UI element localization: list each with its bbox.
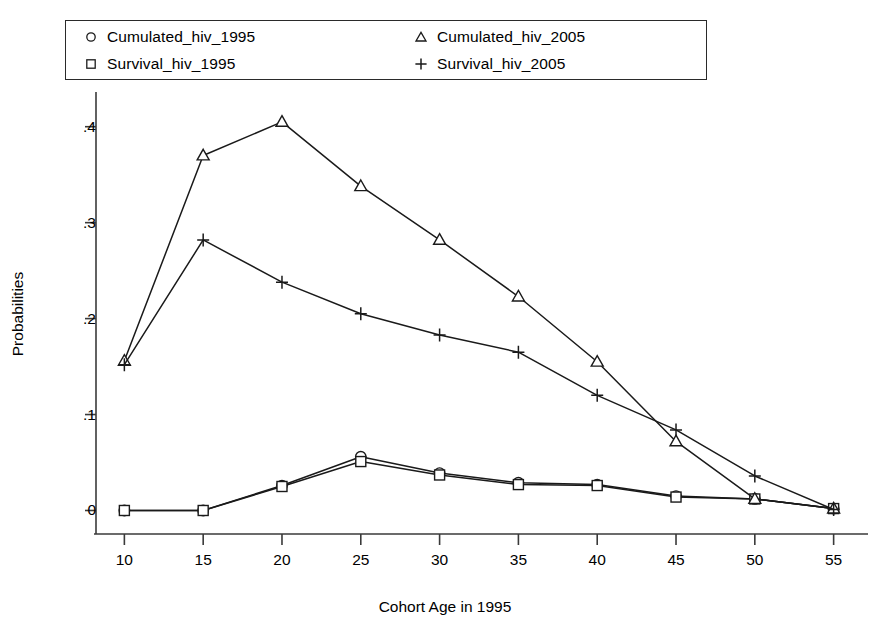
- square-marker: [513, 480, 523, 490]
- x-tick-label: 55: [814, 551, 854, 569]
- x-tick-label: 20: [262, 551, 302, 569]
- triangle-marker: [434, 234, 446, 245]
- triangle-marker: [276, 116, 288, 127]
- y-axis-title: Probabilities: [9, 234, 27, 394]
- x-tick-label: 45: [656, 551, 696, 569]
- series-survival-hiv-2005: [118, 233, 839, 516]
- plus-marker: [749, 469, 761, 482]
- plus-marker: [197, 233, 209, 246]
- plus-marker: [512, 346, 524, 359]
- x-tick-label: 35: [498, 551, 538, 569]
- square-marker: [435, 470, 445, 480]
- y-tick-label: .4: [66, 118, 96, 136]
- triangle-marker: [355, 180, 367, 191]
- plus-marker: [670, 423, 682, 436]
- series-cumulated-hiv-2005: [118, 116, 839, 513]
- y-tick-label: .2: [66, 310, 96, 328]
- plus-marker: [355, 307, 367, 320]
- x-tick-label: 10: [104, 551, 144, 569]
- x-tick-label: 25: [341, 551, 381, 569]
- triangle-marker: [591, 356, 603, 367]
- x-axis-title: Cohort Age in 1995: [0, 598, 890, 616]
- square-marker: [592, 481, 602, 491]
- series-line: [124, 462, 833, 511]
- square-marker: [356, 457, 366, 467]
- triangle-marker: [512, 290, 524, 301]
- plot-area: [0, 0, 890, 641]
- x-tick-label: 15: [183, 551, 223, 569]
- y-tick-label: 0: [66, 501, 96, 519]
- x-axis-tick-labels: 10152025303540455055: [0, 551, 890, 577]
- plus-marker: [118, 358, 130, 371]
- plus-marker: [276, 276, 288, 289]
- y-tick-label: .1: [66, 406, 96, 424]
- x-tick-label: 50: [735, 551, 775, 569]
- y-tick-label: .3: [66, 214, 96, 232]
- series-survival-hiv-1995: [119, 457, 838, 516]
- series-line: [124, 122, 833, 509]
- square-marker: [198, 505, 208, 515]
- x-tick-label: 40: [577, 551, 617, 569]
- square-marker: [277, 482, 287, 492]
- series-line: [124, 240, 833, 510]
- plus-marker: [591, 389, 603, 402]
- plus-marker: [434, 328, 446, 341]
- triangle-marker: [197, 149, 209, 160]
- y-axis-tick-labels: 0.1.2.3.4: [62, 0, 96, 641]
- chart-figure: Cumulated_hiv_1995Cumulated_hiv_2005Surv…: [0, 0, 890, 641]
- square-marker: [671, 492, 681, 502]
- x-tick-label: 30: [420, 551, 460, 569]
- square-marker: [119, 505, 129, 515]
